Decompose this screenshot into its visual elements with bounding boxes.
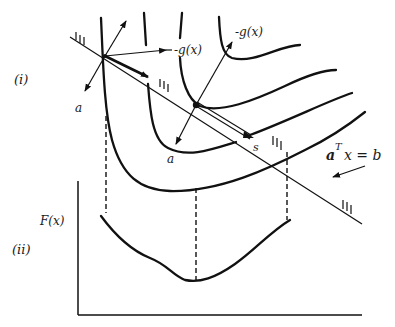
projection-lines bbox=[106, 116, 287, 280]
optimization-diagram: (i) -g(x) a bbox=[0, 0, 395, 327]
contour-lines bbox=[101, 13, 365, 191]
neg-gradient-label-2: -g(x) bbox=[235, 25, 263, 39]
svg-text:x = b: x = b bbox=[344, 147, 382, 163]
search-direction-label: s bbox=[253, 141, 259, 154]
point-1-vectors bbox=[85, 21, 172, 91]
axes bbox=[78, 181, 362, 315]
normal-label-2: a bbox=[167, 152, 174, 166]
constraint-equation-label: a T x = b bbox=[326, 141, 382, 163]
y-axis-label: F(x) bbox=[39, 214, 65, 228]
panel-i-label: (i) bbox=[14, 72, 28, 87]
normal-label-1: a bbox=[75, 101, 82, 115]
svg-text:a: a bbox=[326, 147, 335, 163]
svg-text:T: T bbox=[335, 141, 343, 152]
neg-gradient-label-1: -g(x) bbox=[174, 43, 202, 57]
panel-ii-label: (ii) bbox=[12, 242, 30, 257]
